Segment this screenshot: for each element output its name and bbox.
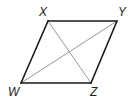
parallelogram-diagram: X Y Z W [0, 0, 134, 99]
diagonals [21, 21, 117, 83]
edge-wx [21, 21, 48, 83]
vertex-label-z: Z [89, 85, 98, 99]
vertex-label-w: W [8, 85, 21, 99]
vertex-label-x: X [38, 5, 48, 19]
diagonal-wy [21, 21, 117, 83]
edge-yz [91, 21, 117, 83]
vertex-label-y: Y [118, 5, 127, 19]
vertex-labels: X Y Z W [8, 5, 127, 99]
